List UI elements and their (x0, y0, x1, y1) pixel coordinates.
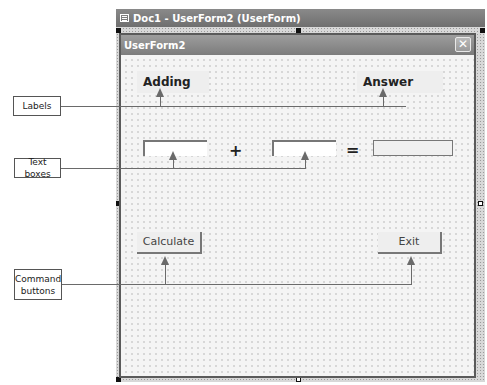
resize-handle-middle-right[interactable] (478, 201, 483, 206)
arrow-to-calculate (161, 256, 169, 265)
arrow-to-exit (407, 256, 415, 265)
callout-command-buttons-text-2: buttons (21, 285, 55, 297)
callout-line-text-boxes (61, 168, 306, 169)
label-adding[interactable]: Adding (137, 71, 209, 93)
close-icon: ✕ (458, 37, 468, 51)
arrow-to-adding (156, 88, 164, 97)
userform-titlebar: UserForm2 ✕ (121, 35, 474, 55)
designer-window-title: Doc1 - UserForm2 (UserForm) (133, 13, 301, 24)
callout-text-boxes-text: Text boxes (15, 156, 60, 180)
equals-operator-label: = (346, 140, 359, 159)
callout-labels: Labels (13, 96, 61, 116)
exit-button[interactable]: Exit (378, 232, 442, 254)
callout-stem-calculate (165, 262, 166, 284)
form-designer-icon (120, 14, 129, 22)
callout-stem-exit (411, 262, 412, 284)
callout-labels-text: Labels (23, 100, 52, 112)
callout-text-boxes: Text boxes (14, 158, 61, 178)
callout-line-command-buttons (62, 284, 412, 285)
designer-window-titlebar: Doc1 - UserForm2 (UserForm) (116, 9, 485, 27)
close-button[interactable]: ✕ (455, 37, 471, 52)
userform-body[interactable] (121, 55, 474, 376)
arrow-to-first-textbox (169, 151, 177, 160)
userform-title: UserForm2 (124, 40, 185, 51)
label-answer[interactable]: Answer (357, 71, 443, 93)
arrow-to-second-textbox (301, 151, 309, 160)
callout-line-labels (61, 106, 406, 107)
resize-handle-top-right[interactable] (480, 28, 485, 33)
calculate-button[interactable]: Calculate (137, 232, 202, 254)
textbox-answer[interactable] (373, 140, 453, 156)
plus-operator-label: + (229, 141, 242, 160)
callout-command-buttons: Command buttons (14, 269, 62, 300)
callout-command-buttons-text-1: Command (15, 273, 61, 285)
arrow-to-answer (379, 88, 387, 97)
